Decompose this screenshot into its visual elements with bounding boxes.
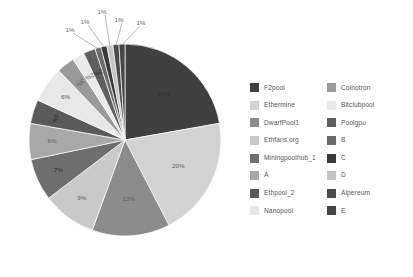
legend-item[interactable]: Alpereum <box>327 185 413 203</box>
legend-item-label: DwarfPool1 <box>264 120 299 127</box>
pie-slice-label: 1% <box>98 8 107 15</box>
legend-item[interactable]: E <box>327 202 413 220</box>
legend-item-label: Miningpoolhub_1 <box>264 155 316 162</box>
legend-item-label: Alpereum <box>341 190 370 197</box>
legend-swatch-icon <box>250 206 259 215</box>
legend-item[interactable]: Nanopool <box>250 202 327 220</box>
legend-swatch-icon <box>327 171 336 180</box>
pie-chart-figure: 22%20%13%9%7%6%4%6%3%2%2%1%1%1%1%1% F2po… <box>0 0 413 277</box>
legend-item[interactable]: Coinotron <box>327 79 413 97</box>
legend-swatch-icon <box>250 154 259 163</box>
legend-item-label: Nanopool <box>264 208 293 215</box>
chart-legend: F2poolCoinotronEthermineBitclubpoolDwarf… <box>250 79 413 221</box>
legend-swatch-icon <box>327 101 336 110</box>
legend-swatch-icon <box>327 118 336 127</box>
pie-slice-label: 22% <box>157 90 170 97</box>
pie-leader-line <box>116 23 122 45</box>
legend-swatch-icon <box>327 136 336 145</box>
pie-slice-label: 6% <box>61 93 70 100</box>
legend-swatch-icon <box>327 83 336 92</box>
legend-item-label: C <box>341 155 346 162</box>
legend-item-label: Ethermine <box>264 102 295 109</box>
legend-item[interactable]: Miningpoolhub_1 <box>250 149 327 167</box>
legend-swatch-icon <box>327 189 336 198</box>
pie-slice-label: 1% <box>81 18 90 25</box>
pie-slice-label: 1% <box>115 16 124 23</box>
legend-item[interactable]: F2pool <box>250 79 327 97</box>
legend-item[interactable]: B <box>327 132 413 150</box>
legend-item[interactable]: Ethfans.org <box>250 132 327 150</box>
legend-item-label: B <box>341 137 346 144</box>
pie-slice-label: 7% <box>54 166 63 173</box>
legend-swatch-icon <box>250 136 259 145</box>
legend-item-label: D <box>341 172 346 179</box>
legend-item[interactable]: Bitclubpool <box>327 97 413 115</box>
pie-slice-label: 1% <box>137 19 146 26</box>
pie-svg: 22%20%13%9%7%6%4%6%3%2%2%1%1%1%1%1% <box>0 0 250 277</box>
legend-swatch-icon <box>250 171 259 180</box>
pie-slice-label: 1% <box>66 26 75 33</box>
pie-slice-label: 13% <box>123 195 136 202</box>
legend-item-label: Coinotron <box>341 85 371 92</box>
legend-swatch-icon <box>250 101 259 110</box>
pie-slice-label: 9% <box>77 194 86 201</box>
legend-item[interactable]: C <box>327 149 413 167</box>
pie-slice-label: 20% <box>172 162 185 169</box>
pie-slice-label: 6% <box>48 137 57 144</box>
pie-plot-area: 22%20%13%9%7%6%4%6%3%2%2%1%1%1%1%1% <box>0 0 250 277</box>
pie-leader-line <box>105 15 110 46</box>
pie-leader-line <box>122 26 140 45</box>
legend-item-label: Ethpool_2 <box>264 190 295 197</box>
legend-item[interactable]: D <box>327 167 413 185</box>
pie-leader-line <box>73 33 98 49</box>
legend-item[interactable]: Poolgpu <box>327 114 413 132</box>
legend-item[interactable]: Ethermine <box>250 97 327 115</box>
legend-item[interactable]: A <box>250 167 327 185</box>
legend-swatch-icon <box>250 189 259 198</box>
legend-item-label: Poolgpu <box>341 120 366 127</box>
legend-item[interactable]: Ethpool_2 <box>250 185 327 203</box>
legend-swatch-icon <box>327 154 336 163</box>
legend-swatch-icon <box>250 118 259 127</box>
legend-item[interactable]: DwarfPool1 <box>250 114 327 132</box>
legend-swatch-icon <box>327 206 336 215</box>
legend-item-label: F2pool <box>264 85 285 92</box>
legend-item-label: Ethfans.org <box>264 137 299 144</box>
legend-item-label: A <box>264 172 269 179</box>
legend-item-label: Bitclubpool <box>341 102 374 109</box>
pie-slice-group <box>29 44 221 236</box>
legend-swatch-icon <box>250 83 259 92</box>
legend-item-label: E <box>341 208 346 215</box>
